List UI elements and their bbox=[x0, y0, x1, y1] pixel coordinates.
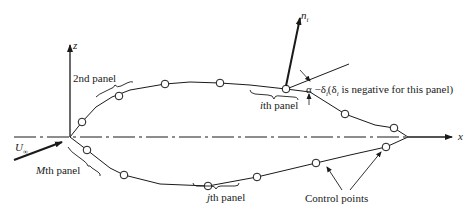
angle-arrow-top bbox=[300, 70, 310, 81]
control-points-label: Control points bbox=[305, 193, 368, 204]
panel-method-diagram bbox=[0, 0, 474, 217]
second-panel-label: 2nd panel bbox=[73, 73, 116, 84]
leader-arrow bbox=[350, 152, 381, 190]
control-point bbox=[120, 171, 128, 179]
jth-panel-label: jth panel bbox=[207, 192, 245, 203]
jth-panel-text: th panel bbox=[210, 191, 245, 203]
control-point bbox=[161, 80, 169, 88]
ith-panel-label: ith panel bbox=[260, 100, 298, 111]
control-point bbox=[312, 159, 320, 167]
angle-symbol: α −δ bbox=[306, 83, 326, 95]
brace-jth-panel bbox=[193, 183, 239, 189]
control-point bbox=[83, 146, 91, 154]
normal-label: ni bbox=[301, 10, 308, 24]
freestream-symbol: U bbox=[15, 141, 23, 153]
control-point bbox=[390, 124, 398, 132]
mth-panel-label: Mth panel bbox=[36, 165, 80, 176]
normal-vector bbox=[286, 18, 300, 86]
freestream-label: U∞ bbox=[15, 142, 28, 156]
leader-arrow bbox=[327, 167, 342, 190]
angle-note-open: (δ bbox=[328, 83, 337, 95]
normal-subscript: i bbox=[307, 16, 309, 24]
mth-panel-text: th panel bbox=[45, 164, 80, 176]
mth-panel-var: M bbox=[36, 164, 45, 176]
ith-panel-text: th panel bbox=[263, 99, 298, 111]
z-axis-label: z bbox=[73, 40, 77, 51]
control-point bbox=[382, 143, 390, 151]
x-axis-label: x bbox=[458, 131, 463, 142]
control-point bbox=[341, 110, 349, 118]
control-point bbox=[115, 92, 123, 100]
airfoil-lower-surface bbox=[70, 137, 408, 186]
control-point bbox=[78, 118, 86, 126]
angle-note-text: is negative for this panel) bbox=[339, 83, 454, 95]
angle-annotation: α −δi(δi is negative for this panel) bbox=[306, 84, 453, 98]
control-point bbox=[253, 173, 261, 181]
control-point bbox=[282, 85, 290, 93]
freestream-subscript: ∞ bbox=[23, 148, 28, 156]
control-point bbox=[216, 79, 224, 87]
